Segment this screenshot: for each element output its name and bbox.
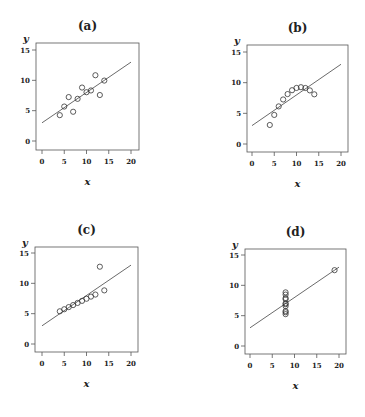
x-tick-label: 20 — [126, 359, 136, 368]
data-point — [102, 288, 107, 293]
data-point — [66, 94, 71, 99]
y-tick-label: 0 — [234, 342, 239, 351]
x-tick-label: 20 — [336, 159, 346, 168]
y-tick-label: 15 — [19, 249, 29, 258]
plot-frame — [247, 45, 348, 152]
y-tick-label: 5 — [25, 106, 30, 115]
y-axis-label: y — [233, 35, 241, 46]
panel-c: (c)05101520051015xy — [19, 223, 138, 389]
panel-b: (b)05101520051015xy — [231, 21, 348, 189]
y-tick-label: 0 — [24, 340, 29, 349]
x-tick-label: 10 — [82, 359, 92, 368]
panel-title: (b) — [288, 21, 308, 35]
data-point — [97, 92, 102, 97]
y-axis-label: y — [21, 237, 29, 248]
x-axis-label: x — [292, 380, 300, 391]
regression-line — [42, 62, 131, 123]
data-point — [267, 122, 272, 127]
data-point — [281, 97, 286, 102]
data-point — [97, 264, 102, 269]
plot-frame — [35, 247, 138, 352]
x-axis-label: x — [84, 176, 92, 187]
data-point — [285, 91, 290, 96]
y-tick-label: 15 — [20, 46, 30, 55]
data-point — [93, 292, 98, 297]
data-point — [71, 302, 76, 307]
y-tick-label: 10 — [229, 281, 239, 290]
data-point — [272, 112, 277, 117]
data-point — [57, 113, 62, 118]
y-tick-label: 5 — [234, 311, 239, 320]
y-tick-label: 15 — [231, 48, 241, 57]
x-tick-label: 0 — [40, 157, 45, 166]
panel-title: (a) — [78, 19, 97, 33]
x-tick-label: 0 — [250, 159, 255, 168]
x-tick-label: 5 — [62, 157, 67, 166]
x-axis-label: x — [294, 178, 302, 189]
panel-title: (d) — [286, 225, 306, 239]
data-point — [283, 295, 288, 300]
data-point — [79, 85, 84, 90]
regression-line — [252, 64, 341, 125]
x-tick-label: 15 — [104, 359, 114, 368]
x-tick-label: 10 — [292, 159, 302, 168]
y-tick-label: 10 — [231, 78, 241, 87]
y-tick-label: 15 — [229, 251, 239, 260]
panel-a: (a)05101520051015xy — [20, 19, 139, 187]
y-tick-label: 5 — [236, 109, 241, 118]
x-axis-label: x — [83, 378, 91, 389]
plot-frame — [245, 249, 346, 354]
x-tick-label: 15 — [314, 159, 324, 168]
y-tick-label: 10 — [20, 76, 30, 85]
anscombe-figure: (a)05101520051015xy (b)05101520051015xy … — [0, 0, 365, 417]
x-tick-label: 5 — [62, 359, 67, 368]
x-tick-label: 5 — [272, 159, 277, 168]
data-point — [312, 92, 317, 97]
data-point — [71, 109, 76, 114]
x-tick-label: 0 — [40, 359, 45, 368]
x-tick-label: 20 — [334, 361, 344, 370]
regression-line — [250, 267, 339, 328]
data-point — [289, 88, 294, 93]
y-tick-label: 5 — [24, 309, 29, 318]
plot-frame — [36, 43, 139, 150]
x-tick-label: 15 — [312, 361, 322, 370]
data-point — [93, 73, 98, 78]
y-axis-label: y — [22, 33, 30, 44]
x-tick-label: 15 — [104, 157, 114, 166]
panel-d: (d)05101520051015xy — [229, 225, 346, 391]
y-tick-label: 10 — [19, 279, 29, 288]
x-tick-label: 10 — [82, 157, 92, 166]
y-tick-label: 0 — [25, 137, 30, 146]
panel-title: (c) — [77, 223, 96, 237]
y-axis-label: y — [231, 239, 239, 250]
x-tick-label: 0 — [248, 361, 253, 370]
x-tick-label: 20 — [126, 157, 136, 166]
x-tick-label: 10 — [290, 361, 300, 370]
data-point — [79, 298, 84, 303]
regression-line — [42, 265, 131, 326]
x-tick-label: 5 — [270, 361, 275, 370]
y-tick-label: 0 — [236, 140, 241, 149]
